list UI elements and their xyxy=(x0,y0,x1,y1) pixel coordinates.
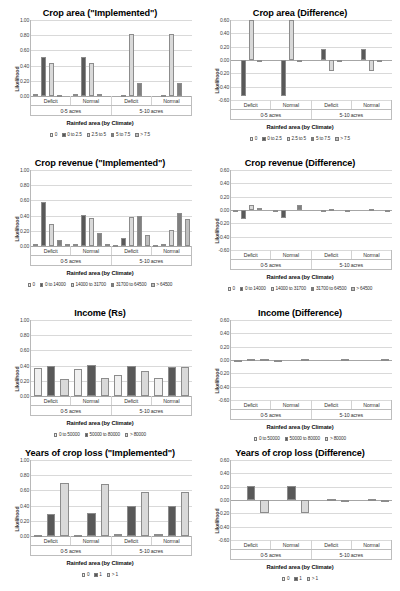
legend-swatch-icon xyxy=(87,133,90,136)
legend-label: > 80000 xyxy=(130,432,146,437)
bar xyxy=(321,49,326,60)
y-axis-tick: 0.60 xyxy=(20,487,29,493)
y-axis-tick: 0.40 xyxy=(220,180,229,186)
y-axis-tick: 0.20 xyxy=(220,194,229,200)
bar xyxy=(301,500,309,513)
x-axis-band-row: 0-5 acres5-10 acres xyxy=(230,410,392,420)
bar-group xyxy=(71,170,111,246)
bar xyxy=(89,63,94,96)
y-axis-tick: -0.60 xyxy=(219,537,229,543)
bar xyxy=(385,210,390,212)
bar xyxy=(260,500,268,513)
bar xyxy=(247,359,255,361)
x-axis-category-label: Deficit xyxy=(231,100,270,109)
y-axis-tick: -0.40 xyxy=(219,384,229,390)
bar-group xyxy=(312,170,352,250)
bar xyxy=(257,208,262,210)
y-axis-tick: 0.80 xyxy=(20,32,29,38)
y-axis-tick: -0.60 xyxy=(219,397,229,403)
chart-panel-crop-area-implemented: Crop area ("Implemented")Likelihood1.000… xyxy=(0,0,200,150)
legend-item: > 7.5 xyxy=(335,136,350,141)
bar xyxy=(274,360,282,362)
x-axis-band-label: 5-10 acres xyxy=(311,410,392,419)
y-axis-tick: 0.00 xyxy=(220,207,229,213)
bar-group xyxy=(152,460,192,536)
legend-label: 0 to 14000 xyxy=(245,286,266,291)
x-axis-band-row: 0-5 acres5-10 acres xyxy=(30,406,192,416)
legend-item: 0 xyxy=(282,576,289,581)
chart-panel-income-difference: Income (Difference)Likelihood0.600.400.2… xyxy=(200,300,400,440)
legend-swatch-icon xyxy=(311,287,314,290)
x-axis-title: Rainfed area (by Climate) xyxy=(4,560,196,566)
legend-item: 50000 to 80000 xyxy=(85,432,120,437)
x-axis-band-label: 5-10 acres xyxy=(111,546,192,555)
legend-item: > 64500 xyxy=(151,282,172,287)
legend-label: 2.5 to 5 xyxy=(292,136,306,141)
x-axis-category-label: Deficit xyxy=(31,96,70,105)
bar-group xyxy=(352,320,392,400)
legend-swatch-icon xyxy=(125,433,128,436)
x-axis-band-label: 0-5 acres xyxy=(31,256,111,265)
x-axis-title: Rainfed area (by Climate) xyxy=(204,424,396,430)
x-axis-band-row: 0-5 acres5-10 acres xyxy=(230,110,392,120)
y-axis-tick: 0.40 xyxy=(20,63,29,69)
bar xyxy=(87,513,95,536)
bar-group xyxy=(231,460,271,540)
legend-label: 5 to 7.5 xyxy=(116,132,130,137)
bar-group xyxy=(152,20,192,96)
x-axis-category-label: Normal xyxy=(351,100,391,109)
y-axis-tick: 0.00 xyxy=(20,393,29,399)
bar xyxy=(381,500,389,502)
x-axis-category-label: Deficit xyxy=(31,396,70,405)
chart-panel-income-rs: Income (Rs)Likelihood1.000.800.600.400.2… xyxy=(0,300,200,440)
x-axis-category-label: Normal xyxy=(270,400,310,409)
legend-label: 0 xyxy=(287,576,289,581)
legend-label: 50000 to 80000 xyxy=(90,432,120,437)
legend-label: > 7.5 xyxy=(340,136,350,141)
x-axis-title: Rainfed area (by Climate) xyxy=(204,124,396,130)
bar xyxy=(181,492,189,536)
chart-panel-crop-revenue-implemented: Crop revenue ("Implemented")Likelihood1.… xyxy=(0,150,200,300)
x-axis-band-label: 5-10 acres xyxy=(111,256,192,265)
bar-group xyxy=(312,460,352,540)
legend-item: > 1 xyxy=(107,572,118,577)
y-axis-tick: 0.80 xyxy=(20,472,29,478)
y-axis-tick: 0.20 xyxy=(220,484,229,490)
chart-legend: 00 to 2.52.5 to 55 to 7.5> 7.5 xyxy=(4,132,196,137)
bar xyxy=(249,20,254,60)
x-axis-category-label: Normal xyxy=(270,540,310,549)
x-axis-title: Rainfed area (by Climate) xyxy=(204,564,396,570)
x-axis-category-row: DeficitNormalDeficitNormal xyxy=(230,250,392,260)
y-axis-tick: 0.60 xyxy=(20,47,29,53)
x-axis-category-row: DeficitNormalDeficitNormal xyxy=(30,246,192,256)
bar xyxy=(154,378,162,396)
x-axis-category-label: Deficit xyxy=(111,96,151,105)
plot-area: 1.000.800.600.400.200.00 xyxy=(30,20,192,96)
bar xyxy=(177,213,182,246)
bar-group xyxy=(271,170,311,250)
legend-swatch-icon xyxy=(351,287,354,290)
y-axis-tick: 0.20 xyxy=(20,78,29,84)
bar-group xyxy=(271,460,311,540)
x-axis-band-label: 0-5 acres xyxy=(31,106,111,115)
bar xyxy=(381,359,389,361)
legend-swatch-icon xyxy=(28,283,31,286)
chart-legend: 0 to 5000050000 to 80000> 80000 xyxy=(4,432,196,437)
bar xyxy=(49,224,54,246)
chart-panel-crop-area-difference: Crop area (Difference)Likelihood0.600.40… xyxy=(200,0,400,150)
bar xyxy=(89,218,94,246)
legend-item: 0 to 14000 xyxy=(240,286,266,291)
bar xyxy=(249,205,254,210)
y-axis-tick: -0.40 xyxy=(219,524,229,530)
legend-item: 2.5 to 5 xyxy=(87,132,106,137)
bar-group xyxy=(71,20,111,96)
bar xyxy=(377,60,382,62)
y-axis-tick: -0.60 xyxy=(219,247,229,253)
x-axis-title: Rainfed area (by Climate) xyxy=(4,270,196,276)
bar xyxy=(321,210,326,212)
legend-label: 0 xyxy=(55,132,57,137)
legend-label: 0 xyxy=(233,286,235,291)
bar xyxy=(273,210,278,212)
bar-group xyxy=(312,20,352,100)
legend-item: 0 xyxy=(250,136,257,141)
